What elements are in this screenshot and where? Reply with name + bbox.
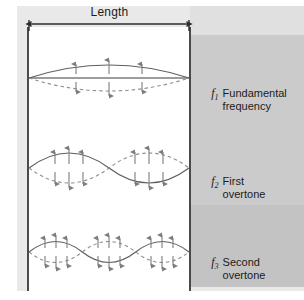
mode-subscript-f2: 2 [215, 181, 219, 190]
mode-name-f2-line2: overtone [223, 188, 266, 200]
wave-dashed-first-overtone [29, 153, 189, 183]
mode-first-overtone [29, 148, 189, 188]
standing-wave-figure: Length [0, 0, 304, 300]
mode-second-overtone [29, 235, 189, 269]
mode-subscript-f3: 3 [215, 262, 219, 271]
mode-name-f1-line1: Fundamental [223, 87, 287, 99]
dimension-arrow [29, 20, 189, 31]
mode-name-f2: Firstovertone [223, 175, 266, 201]
mode-label-second-overtone: f3Secondovertone [199, 243, 265, 295]
mode-subscript-f1: 1 [215, 93, 219, 102]
mode-name-f3-line1: Second [223, 256, 260, 268]
mode-label-first-overtone: f2Firstovertone [199, 162, 265, 214]
mode-name-f3-line2: overtone [223, 269, 266, 281]
displacement-arrows-second-overtone [45, 235, 173, 269]
mode-label-fundamental: f1Fundamentalfrequency [199, 74, 287, 126]
mode-name-f1: Fundamentalfrequency [223, 87, 287, 113]
mode-name-f1-line2: frequency [223, 100, 271, 112]
mode-name-f2-line1: First [223, 175, 244, 187]
mode-fundamental [29, 60, 189, 96]
mode-name-f3: Secondovertone [223, 256, 266, 282]
